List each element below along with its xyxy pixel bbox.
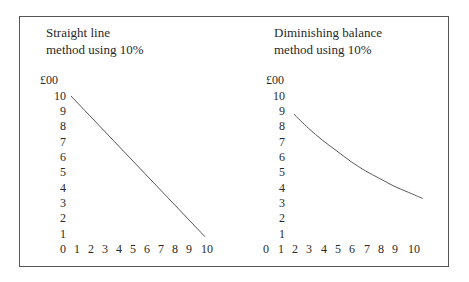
diminishing-balance-series — [294, 114, 423, 198]
plot-lines — [0, 0, 469, 282]
straight-line-series — [71, 96, 205, 237]
